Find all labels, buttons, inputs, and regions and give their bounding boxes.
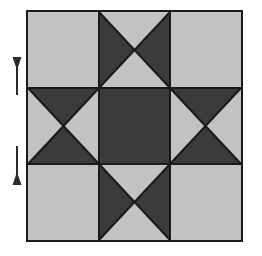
cell-middle-right [170, 88, 241, 164]
cell-bottom-left [28, 164, 99, 240]
cell-bottom-right-fabric [170, 164, 241, 240]
cell-center-fabric [99, 88, 170, 164]
cell-bottom-right [170, 164, 241, 240]
quilt-block-figure [0, 0, 262, 256]
cell-top-right-fabric [170, 12, 241, 88]
cell-top-right [170, 12, 241, 88]
cell-top-center [99, 12, 170, 88]
ohio-star-block [27, 11, 242, 241]
cell-top-left-fabric [28, 12, 99, 88]
cell-top-left [28, 12, 99, 88]
diagram-canvas: Quilt block diagram Ohio Star quilt bloc… [0, 0, 262, 256]
cell-bottom-center [99, 164, 170, 240]
cell-bottom-left-fabric [28, 164, 99, 240]
cell-middle-left [28, 88, 99, 164]
cell-center [99, 88, 170, 164]
